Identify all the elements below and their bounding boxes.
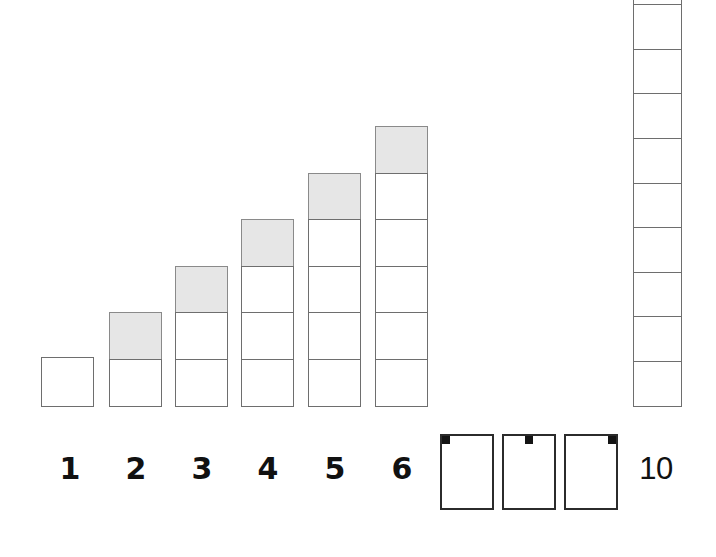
tick-label-2: 2	[110, 452, 162, 486]
tower-10-cell-9	[633, 4, 682, 50]
tower-6-cell-2	[375, 312, 428, 360]
tower-1	[41, 357, 94, 407]
tick-label-4: 4	[242, 452, 294, 486]
tower-10-cell-7	[633, 93, 682, 139]
tower-6-cell-5	[375, 173, 428, 221]
tower-10-cell-1	[633, 361, 682, 407]
blank-for-7[interactable]	[440, 434, 494, 510]
tower-10-cell-3	[633, 272, 682, 318]
tower-10-cell-6	[633, 138, 682, 184]
tower-5	[308, 167, 361, 407]
tower-3-cell-3-shaded	[175, 266, 228, 314]
tower-4-cell-2	[241, 312, 294, 360]
tower-4-cell-3	[241, 266, 294, 314]
tower-6-cell-4	[375, 219, 428, 267]
tower-3-cell-2	[175, 312, 228, 360]
tower-10-cell-4	[633, 227, 682, 273]
tower-2-cell-1	[109, 359, 162, 407]
tower-5-cell-4	[308, 219, 361, 267]
tower-6-cell-6-shaded	[375, 126, 428, 174]
tower-10-cell-8	[633, 49, 682, 95]
tower-5-cell-3	[308, 266, 361, 314]
tick-label-3: 3	[176, 452, 228, 486]
tower-1-cell-1	[41, 357, 94, 407]
worksheet-canvas: 1 2 3 4 5 6 10	[0, 0, 716, 557]
tower-3	[175, 263, 228, 407]
blank-for-9[interactable]	[564, 434, 618, 510]
tower-6-cell-1	[375, 359, 428, 407]
corner-dot-icon	[525, 436, 533, 444]
tower-10-cell-2	[633, 316, 682, 362]
tick-label-1: 1	[44, 452, 96, 486]
corner-dot-icon	[442, 436, 450, 444]
tower-5-cell-1	[308, 359, 361, 407]
tower-10	[633, 0, 682, 407]
tower-5-cell-2	[308, 312, 361, 360]
blank-for-8[interactable]	[502, 434, 556, 510]
tick-label-10: 10	[630, 452, 682, 486]
corner-dot-icon	[608, 436, 616, 444]
tower-6	[375, 119, 428, 407]
tick-label-5: 5	[309, 452, 361, 486]
tick-label-6: 6	[376, 452, 428, 486]
tower-4	[241, 215, 294, 407]
tower-4-cell-1	[241, 359, 294, 407]
tower-3-cell-1	[175, 359, 228, 407]
tower-2	[109, 311, 162, 407]
tower-2-cell-2-shaded	[109, 312, 162, 360]
tower-10-cell-5	[633, 183, 682, 229]
tower-5-cell-5-shaded	[308, 173, 361, 221]
tower-6-cell-3	[375, 266, 428, 314]
tower-4-cell-4-shaded	[241, 219, 294, 267]
